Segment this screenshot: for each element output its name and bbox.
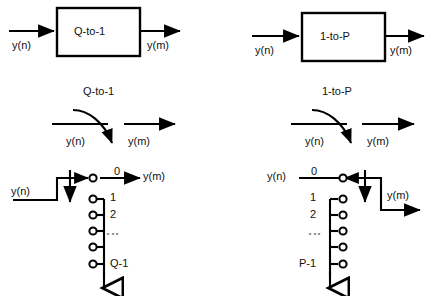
commutator-left-terminal-2: 2	[110, 209, 116, 220]
switch-left-output-label: y(m)	[128, 136, 150, 147]
block-right-input-label: y(n)	[255, 45, 274, 56]
figure-canvas: Q-to-1 y(n) y(m) 1-to-P y(n) y(m) Q-to-1…	[0, 0, 436, 296]
switch-right-input-label: y(n)	[305, 136, 324, 147]
commutator-right-terminal-1: 1	[310, 192, 316, 203]
commutator-left-input-label: y(n)	[11, 186, 30, 197]
commutator-right-input-label: y(n)	[267, 171, 286, 182]
switch-right-output-label: y(m)	[367, 136, 389, 147]
switch-right-rate-label: 1-to-P	[322, 86, 352, 97]
commutator-right-terminal-2: 2	[310, 209, 316, 220]
diagram-vector-layer	[0, 0, 436, 296]
block-left-output-label: y(m)	[147, 40, 169, 51]
block-right-label: 1-to-P	[320, 31, 350, 42]
commutator-left-output-label: y(m)	[143, 171, 165, 182]
commutator-right-output-label: y(m)	[387, 190, 409, 201]
switch-left-input-label: y(n)	[66, 136, 85, 147]
block-left-label: Q-to-1	[74, 26, 105, 37]
commutator-right-terminal-ellipsis: ⋮	[312, 228, 317, 240]
commutator-left-terminal-ellipsis: ⋮	[110, 228, 115, 240]
commutator-left-terminal-last: Q-1	[110, 258, 128, 269]
commutator-right-terminal-last: P-1	[299, 258, 316, 269]
block-right-output-label: y(m)	[390, 45, 412, 56]
block-left-input-label: y(n)	[12, 40, 31, 51]
commutator-left-terminal-0: 0	[114, 166, 120, 177]
commutator-left	[13, 170, 140, 288]
commutator-left-terminal-1: 1	[110, 192, 116, 203]
switch-left-rate-label: Q-to-1	[83, 86, 114, 97]
commutator-right-terminal-0: 0	[311, 166, 317, 177]
